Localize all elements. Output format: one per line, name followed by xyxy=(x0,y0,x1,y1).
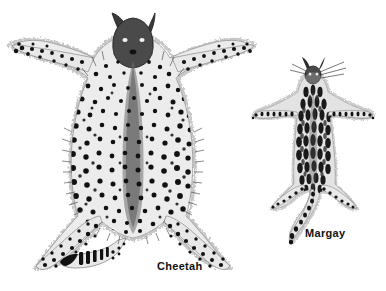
cheetah-eye-left xyxy=(122,38,127,42)
cheetah-muzzle xyxy=(130,50,137,55)
cheetah-eye-right xyxy=(139,38,144,42)
pelt-illustration-canvas xyxy=(0,0,386,291)
specimen-label-margay: Margay xyxy=(305,228,345,239)
pelt-comparison-figure: Cheetah Margay xyxy=(0,0,386,291)
specimen-label-cheetah: Cheetah xyxy=(157,261,203,272)
